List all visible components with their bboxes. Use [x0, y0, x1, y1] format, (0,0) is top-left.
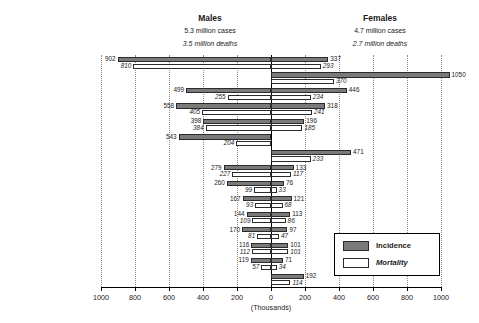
x-axis-tick [305, 287, 306, 291]
left-incidence-bar [186, 88, 271, 93]
right-mortality-bar [271, 203, 283, 208]
x-axis-tick [407, 287, 408, 291]
x-axis-tick [169, 287, 170, 291]
right-incidence-bar [271, 72, 450, 77]
right-mortality-bar [271, 265, 277, 270]
chart-legend: Incidence Mortality [334, 233, 440, 276]
x-axis-tick [203, 287, 204, 291]
left-mortality-bar [232, 172, 271, 177]
left-mortality-value: 405 [189, 109, 200, 115]
left-mortality-value: 255 [215, 94, 226, 100]
right-mortality-value: 33 [279, 187, 286, 193]
right-mortality-bar [271, 187, 277, 192]
left-mortality-bar [133, 64, 271, 69]
right-mortality-value: 293 [323, 63, 334, 69]
right-mortality-bar [271, 218, 286, 223]
left-incidence-value: 902 [105, 56, 116, 62]
x-axis-tick-label: 1000 [421, 293, 461, 302]
right-incidence-bar [271, 243, 288, 248]
left-incidence-bar [242, 227, 271, 232]
males-cases-text: 5.3 million cases [130, 27, 290, 34]
x-axis-tick [373, 287, 374, 291]
right-mortality-bar [271, 234, 279, 239]
left-incidence-bar [118, 57, 271, 62]
right-incidence-bar [271, 88, 347, 93]
x-axis-tick [135, 287, 136, 291]
left-mortality-value: 112 [240, 249, 250, 255]
x-axis-tick [101, 287, 102, 291]
left-mortality-bar [252, 218, 271, 223]
left-mortality-value: 81 [248, 233, 255, 239]
x-axis-tick [271, 287, 272, 291]
left-mortality-value: 93 [246, 202, 253, 208]
right-mortality-value: 68 [285, 202, 292, 208]
left-incidence-value: 499 [173, 87, 184, 93]
right-mortality-value: 233 [313, 156, 324, 162]
left-mortality-value: 810 [121, 63, 132, 69]
right-mortality-value: 114 [292, 280, 302, 286]
mortality-swatch-icon [343, 258, 369, 268]
chart-row: Bladder260997633 [101, 179, 441, 196]
left-incidence-value: 260 [214, 180, 225, 186]
right-incidence-bar [271, 274, 304, 279]
chart-row: Oesophagus279227133117 [101, 163, 441, 180]
chart-row: Cervix uteri471233 [101, 148, 441, 165]
males-deaths-text: 3.5 million deaths [130, 40, 290, 47]
right-mortality-bar [271, 156, 311, 161]
left-incidence-value: 543 [166, 134, 177, 140]
legend-label-mortality: Mortality [376, 258, 408, 267]
left-mortality-value: 384 [193, 125, 204, 131]
chart-row: Breast1050370 [101, 70, 441, 87]
chart-row: Non-Hodgkin lymphoma1679312168 [101, 194, 441, 211]
left-mortality-bar [202, 110, 271, 115]
gridline [441, 55, 443, 287]
right-incidence-value: 121 [294, 196, 305, 202]
right-mortality-value: 234 [313, 94, 324, 100]
right-incidence-value: 446 [349, 87, 360, 93]
left-incidence-value: 558 [163, 103, 174, 109]
right-mortality-value: 117 [293, 171, 303, 177]
females-cases-text: 4.7 million cases [300, 27, 460, 34]
chart-row: Leukaemia14410911386 [101, 210, 441, 227]
males-heading: Males [130, 13, 290, 23]
females-heading: Females [300, 13, 460, 23]
right-mortality-bar [271, 110, 312, 115]
chart-row: Liver398384196185 [101, 117, 441, 134]
right-mortality-bar [271, 172, 291, 177]
right-mortality-value: 34 [279, 264, 286, 270]
right-mortality-bar [271, 95, 311, 100]
x-axis-tick [441, 287, 442, 291]
right-mortality-bar [271, 79, 334, 84]
right-mortality-value: 185 [304, 125, 315, 131]
left-mortality-bar [254, 187, 271, 192]
left-mortality-bar [228, 95, 271, 100]
right-mortality-value: 86 [288, 218, 295, 224]
left-mortality-bar [257, 234, 271, 239]
left-incidence-bar [203, 119, 271, 124]
right-incidence-bar [271, 119, 304, 124]
left-incidence-value: 167 [230, 196, 241, 202]
legend-label-incidence: Incidence [376, 241, 411, 250]
right-incidence-value: 192 [306, 273, 317, 279]
left-mortality-bar [255, 203, 271, 208]
x-axis-tick [339, 287, 340, 291]
right-mortality-bar [271, 249, 288, 254]
right-incidence-bar [271, 150, 351, 155]
right-incidence-bar [271, 165, 294, 170]
chart-row: Colon/Rectum499255446234 [101, 86, 441, 103]
right-mortality-bar [271, 64, 321, 69]
right-incidence-value: 1050 [452, 72, 466, 78]
left-incidence-value: 170 [229, 227, 240, 233]
right-mortality-value: 370 [336, 78, 347, 84]
chart-row: Prostate543204 [101, 132, 441, 149]
right-mortality-value: 241 [314, 109, 325, 115]
right-incidence-value: 97 [289, 227, 296, 233]
x-axis-title: (Thousands) [231, 303, 311, 312]
left-incidence-value: 119 [239, 257, 249, 263]
chart-row: Stomach558405318241 [101, 101, 441, 118]
left-mortality-bar [252, 249, 271, 254]
left-mortality-value: 227 [220, 171, 231, 177]
right-incidence-value: 318 [327, 103, 338, 109]
left-mortality-bar [236, 141, 271, 146]
left-mortality-value: 99 [245, 187, 252, 193]
